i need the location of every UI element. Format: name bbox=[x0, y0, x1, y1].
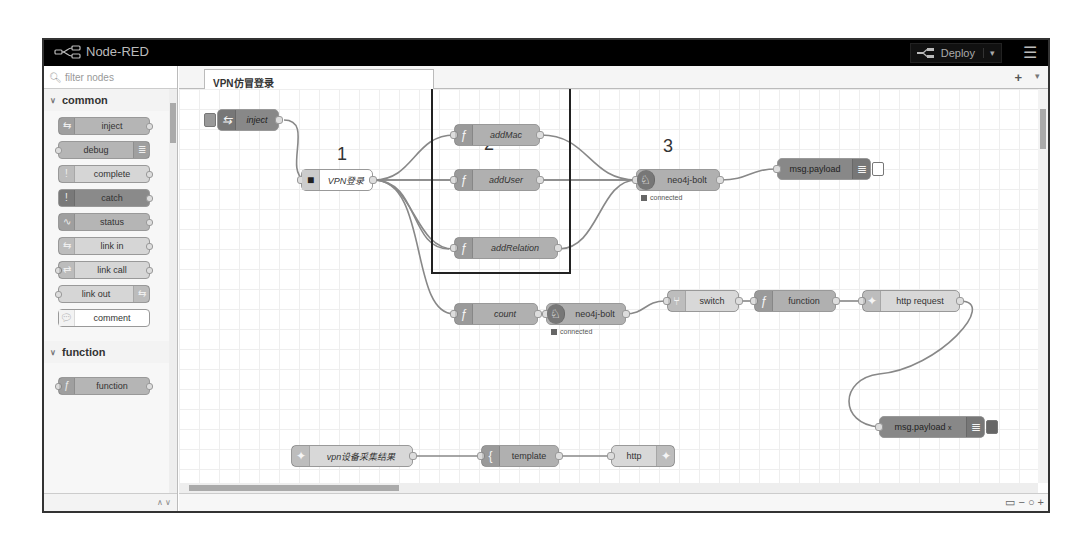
debug-list-icon: ≣ bbox=[133, 142, 149, 158]
function-icon: ƒ bbox=[455, 125, 473, 145]
chevron-down-icon: ∨ bbox=[50, 96, 56, 105]
output-port[interactable] bbox=[409, 452, 417, 460]
output-port bbox=[146, 383, 153, 390]
workspace: VPN仿冒登录 + ▾ bbox=[179, 66, 1048, 511]
category-label: common bbox=[62, 94, 108, 106]
palette-node-debug[interactable]: debug≣ bbox=[58, 141, 150, 159]
palette-scrollbar[interactable] bbox=[169, 89, 177, 493]
node-red-window: Node-RED Deploy ▾ ☰ 🔍︎ filter nodes ∨ co… bbox=[42, 38, 1050, 513]
node-switch[interactable]: ⑂ switch bbox=[667, 290, 739, 312]
node-red-logo-icon bbox=[54, 45, 82, 59]
node-http-response[interactable]: http ✦ bbox=[611, 445, 675, 467]
navigator-map-icon[interactable]: ▭ bbox=[1005, 496, 1015, 509]
output-port[interactable] bbox=[275, 116, 283, 124]
zoom-controls: ▭ − ○ + bbox=[1005, 496, 1044, 509]
flow-canvas[interactable]: 1 2 3 ⇆ inject ■ VPN登录 ƒ addMac bbox=[179, 89, 1038, 483]
node-add-user[interactable]: ƒ addUser bbox=[454, 169, 540, 191]
deploy-button[interactable]: Deploy ▾ bbox=[910, 43, 1002, 63]
output-port[interactable] bbox=[555, 452, 563, 460]
palette-node-link-call[interactable]: ⇄link call bbox=[58, 261, 150, 279]
inject-trigger-button[interactable] bbox=[204, 113, 216, 127]
palette-node-comment[interactable]: 💬︎comment bbox=[58, 309, 150, 327]
debug-list-icon: ≣ bbox=[966, 417, 984, 437]
main-menu-icon[interactable]: ☰ bbox=[1020, 43, 1040, 63]
palette-node-status[interactable]: ∿status bbox=[58, 213, 150, 231]
node-http-request[interactable]: ✦ http request bbox=[862, 290, 960, 312]
tab-vpn-login[interactable]: VPN仿冒登录 bbox=[204, 69, 434, 90]
function-icon: ƒ bbox=[59, 378, 75, 394]
palette-node-catch[interactable]: !catch bbox=[58, 189, 150, 207]
deploy-dropdown-caret-icon[interactable]: ▾ bbox=[983, 48, 1001, 58]
deploy-icon bbox=[911, 47, 941, 59]
node-add-relation[interactable]: ƒ addRelation bbox=[454, 237, 558, 259]
switch-icon: ⑂ bbox=[668, 291, 686, 311]
debug-toggle-button[interactable] bbox=[986, 420, 998, 434]
output-port[interactable] bbox=[832, 297, 840, 305]
chevron-down-icon: ∨ bbox=[50, 348, 56, 357]
node-inject[interactable]: ⇆ inject bbox=[217, 109, 279, 131]
output-port[interactable] bbox=[956, 297, 964, 305]
search-icon: 🔍︎ bbox=[49, 72, 62, 83]
output-port[interactable] bbox=[536, 131, 544, 139]
template-brace-icon: { bbox=[482, 446, 500, 466]
canvas-horizontal-scrollbar[interactable] bbox=[179, 483, 1038, 493]
output-port bbox=[146, 267, 153, 274]
node-vpn-login[interactable]: ■ VPN登录 bbox=[301, 169, 373, 191]
zoom-reset-button[interactable]: ○ bbox=[1028, 496, 1035, 509]
tab-menu-caret-icon[interactable]: ▾ bbox=[1035, 71, 1040, 81]
node-status: connected bbox=[641, 194, 682, 201]
palette-node-link-out[interactable]: link out⇆ bbox=[58, 285, 150, 303]
link-icon: ⇆ bbox=[59, 238, 75, 254]
output-port[interactable] bbox=[735, 297, 743, 305]
deploy-label: Deploy bbox=[941, 47, 983, 59]
input-port[interactable] bbox=[773, 165, 781, 173]
node-function[interactable]: ƒ function bbox=[754, 290, 836, 312]
output-port[interactable] bbox=[622, 310, 630, 318]
function-icon: ƒ bbox=[455, 170, 473, 190]
input-port[interactable] bbox=[607, 452, 615, 460]
node-neo4j-bolt-2[interactable]: ♘ neo4j-bolt connected bbox=[546, 303, 626, 325]
output-port[interactable] bbox=[536, 176, 544, 184]
neo4j-icon: ♘ bbox=[637, 170, 655, 190]
node-neo4j-bolt-1[interactable]: ♘ neo4j-bolt connected bbox=[636, 169, 720, 191]
canvas-vertical-scrollbar[interactable] bbox=[1038, 89, 1048, 483]
output-port[interactable] bbox=[534, 310, 542, 318]
node-add-mac[interactable]: ƒ addMac bbox=[454, 124, 540, 146]
output-port bbox=[146, 219, 153, 226]
debug-toggle-button[interactable] bbox=[872, 162, 884, 176]
filter-placeholder: filter nodes bbox=[65, 72, 114, 83]
palette-node-function[interactable]: ƒfunction bbox=[58, 377, 150, 395]
add-tab-icon[interactable]: + bbox=[1014, 70, 1022, 85]
annotation-3: 3 bbox=[663, 136, 673, 157]
node-debug-msg-payload-2[interactable]: msg.payload x ≣ bbox=[879, 416, 985, 438]
input-port[interactable] bbox=[875, 423, 883, 431]
status-dot-icon bbox=[641, 195, 647, 201]
zoom-in-button[interactable]: + bbox=[1038, 496, 1044, 509]
node-template[interactable]: { template bbox=[481, 445, 559, 467]
output-port[interactable] bbox=[716, 176, 724, 184]
scrollbar-thumb[interactable] bbox=[189, 485, 399, 491]
scrollbar-thumb[interactable] bbox=[1040, 109, 1046, 149]
output-port[interactable] bbox=[369, 176, 377, 184]
scrollbar-thumb[interactable] bbox=[170, 103, 176, 143]
category-function-header[interactable]: ∨ function bbox=[44, 341, 177, 363]
annotation-1: 1 bbox=[337, 144, 347, 165]
output-port bbox=[146, 171, 153, 178]
palette-node-link-in[interactable]: ⇆link in bbox=[58, 237, 150, 255]
palette-footer-controls[interactable]: ∧ ∨ bbox=[44, 493, 177, 511]
workspace-tabs: VPN仿冒登录 + ▾ bbox=[179, 66, 1048, 89]
output-port[interactable] bbox=[554, 244, 562, 252]
node-debug-msg-payload-1[interactable]: msg.payload ≣ bbox=[777, 158, 871, 180]
inject-icon: ⇆ bbox=[59, 118, 75, 134]
node-http-in-vpn-result[interactable]: ✦ vpn设备采集结果 bbox=[291, 445, 413, 467]
filter-nodes-input[interactable]: 🔍︎ filter nodes bbox=[44, 66, 177, 89]
pulse-icon: ∿ bbox=[59, 214, 75, 230]
node-count[interactable]: ƒ count bbox=[454, 303, 538, 325]
input-port bbox=[55, 291, 62, 298]
palette-node-inject[interactable]: ⇆inject bbox=[58, 117, 150, 135]
palette-node-complete[interactable]: !complete bbox=[58, 165, 150, 183]
palette-sidebar: 🔍︎ filter nodes ∨ common ⇆inject debug≣ … bbox=[44, 66, 178, 511]
link-call-icon: ⇄ bbox=[59, 262, 75, 278]
category-common-header[interactable]: ∨ common bbox=[44, 89, 177, 111]
zoom-out-button[interactable]: − bbox=[1018, 496, 1024, 509]
